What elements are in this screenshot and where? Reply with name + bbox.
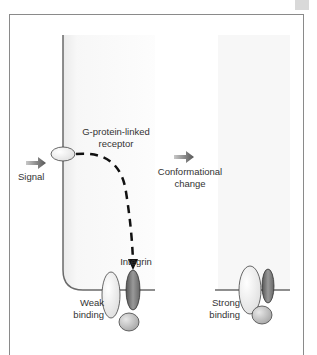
integrin-beta-weak — [126, 270, 140, 310]
cell-interior-right — [218, 35, 290, 290]
integrin-label: Integrin — [116, 256, 156, 267]
signal-arrow-icon — [26, 157, 46, 169]
ligand-strong — [252, 306, 272, 324]
signal-label: Signal — [18, 171, 44, 182]
strong-label-line1: Strong — [200, 297, 240, 308]
ligand-weak — [119, 313, 139, 331]
receptor-label-line1: G-protein-linked — [72, 126, 160, 137]
integrin-alpha-weak — [102, 272, 120, 318]
integrin-beta-strong — [262, 269, 274, 303]
g-protein-receptor — [51, 147, 75, 161]
receptor-label-line2: receptor — [72, 138, 160, 149]
conformational-label-line1: Conformational — [150, 166, 230, 177]
conformational-arrow-icon — [174, 151, 194, 163]
conformational-label-line2: change — [150, 178, 230, 189]
strong-label-line2: binding — [200, 309, 240, 320]
weak-label-line1: Weak — [72, 297, 104, 308]
cell-interior — [63, 35, 155, 290]
weak-label-line2: binding — [64, 309, 104, 320]
